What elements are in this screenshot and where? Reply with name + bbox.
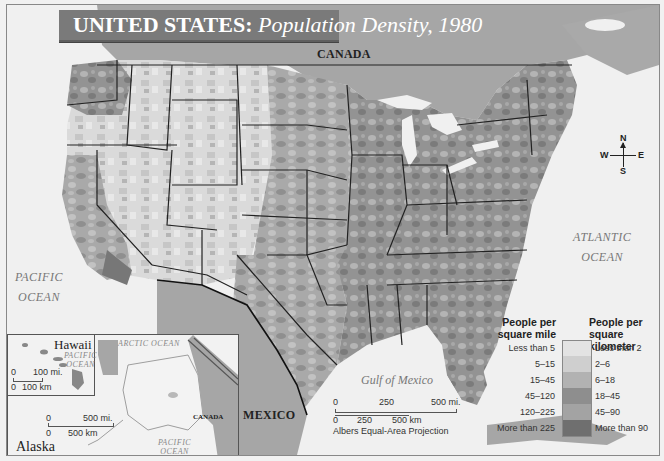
- map-frame: UNITED STATES: Population Density, 1980 …: [6, 4, 660, 456]
- legend-mile-5: 120–225: [475, 407, 555, 417]
- legend-mile-2: 5–15: [475, 359, 555, 369]
- label-atlantic-ocean: ATLANTIC OCEAN: [573, 227, 631, 267]
- legend-mile-3: 15–45: [475, 375, 555, 385]
- alaska-title: Alaska: [16, 439, 55, 455]
- legend-km-2: 2–6: [595, 359, 610, 369]
- legend-swatch-5: [562, 404, 592, 420]
- map-title: UNITED STATES: Population Density, 1980: [59, 10, 339, 42]
- legend-km-3: 6–18: [595, 375, 615, 385]
- label-mexico: MEXICO: [243, 408, 295, 423]
- label-arctic-ocean: ARCTIC OCEAN: [118, 339, 180, 348]
- label-pacific-ocean: PACIFIC OCEAN: [15, 267, 63, 307]
- legend-km-6: More than 90: [595, 423, 648, 433]
- legend-km-5: 45–90: [595, 407, 620, 417]
- legend-km-4: 18–45: [595, 391, 620, 401]
- label-gulf-of-mexico: Gulf of Mexico: [361, 373, 433, 388]
- legend-swatch-6: [562, 420, 592, 437]
- label-pacific-ocean-alaska: PACIFIC OCEAN: [158, 438, 191, 456]
- map-title-bold: UNITED STATES:: [73, 12, 253, 37]
- label-pacific-ocean-hawaii: PACIFIC OCEAN: [64, 351, 97, 369]
- legend-swatch-3: [562, 372, 592, 388]
- legend-mile-1: Less than 5: [475, 343, 555, 353]
- legend-swatch-1: [562, 340, 592, 357]
- label-canada: CANADA: [317, 47, 371, 62]
- legend-mile-4: 45–120: [475, 391, 555, 401]
- projection-label: Albers Equal-Area Projection: [333, 426, 449, 436]
- map-title-italic: Population Density, 1980: [258, 12, 482, 37]
- north-arrow-icon: [620, 142, 626, 148]
- compass-rose: N W E S: [603, 133, 643, 173]
- legend-swatch-2: [562, 356, 592, 372]
- legend-swatch-4: [562, 388, 592, 404]
- hawaii-inset: Hawaii PACIFIC OCEAN 0 100 mi. 0 100 km: [7, 334, 95, 396]
- label-canada-inset: CANADA: [193, 413, 223, 421]
- legend-mile-6: More than 225: [475, 423, 555, 433]
- population-density-map: UNITED STATES: Population Density, 1980 …: [0, 0, 664, 461]
- legend-km-1: Less than 2: [595, 343, 642, 353]
- legend-header-mile: People per square mile: [490, 316, 556, 340]
